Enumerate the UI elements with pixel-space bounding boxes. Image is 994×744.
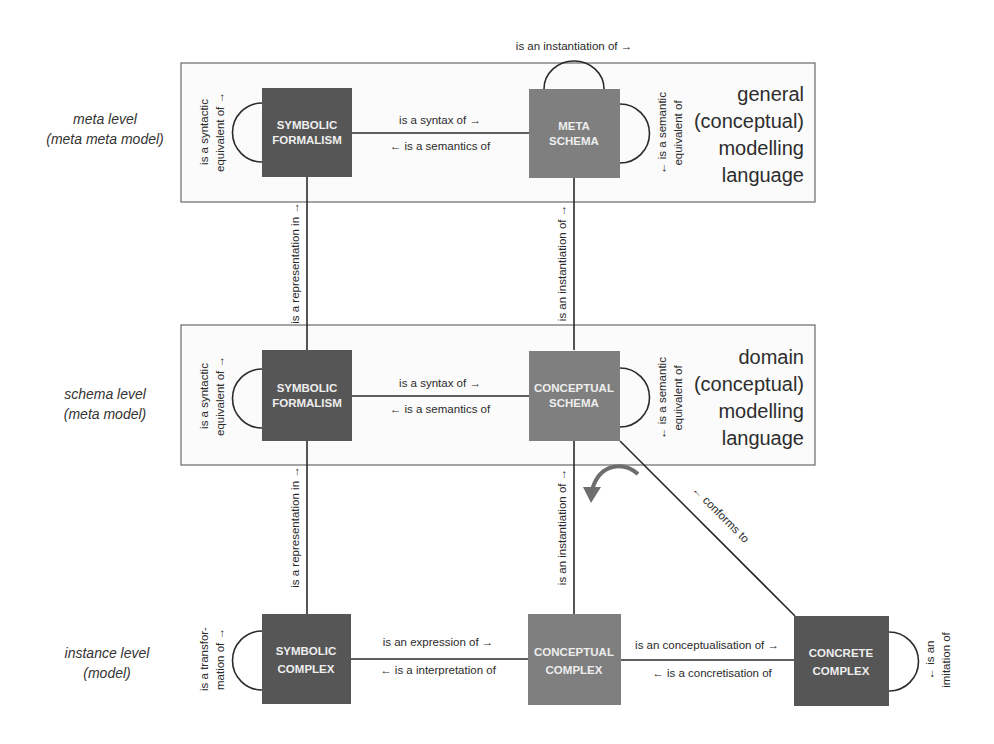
imitation-loop bbox=[889, 632, 919, 691]
label-conforms-to: ← conforms to bbox=[690, 483, 751, 544]
svg-text:(model): (model) bbox=[83, 665, 130, 681]
label-expression-of: is an expression of → bbox=[383, 636, 494, 648]
svg-text:CONCEPTUAL: CONCEPTUAL bbox=[534, 382, 614, 394]
label-representation-lower: is a representation in → bbox=[289, 466, 301, 587]
transformation-loop bbox=[233, 631, 262, 690]
svg-text:(conceptual): (conceptual) bbox=[694, 110, 804, 132]
level-label-schema: schema level (meta model) bbox=[64, 386, 147, 422]
svg-text:equivalent of: equivalent of bbox=[672, 100, 684, 166]
svg-text:language: language bbox=[722, 164, 804, 186]
svg-text:CONCRETE: CONCRETE bbox=[809, 647, 874, 659]
svg-text:instance level: instance level bbox=[65, 645, 151, 661]
svg-text:← is an: ← is an bbox=[924, 641, 936, 680]
svg-text:equivalent of →: equivalent of → bbox=[214, 92, 226, 172]
label-transformation: is a transfor- mation of → bbox=[198, 627, 226, 691]
label-conceptualisation-of: is an conceptualisation of → bbox=[635, 639, 779, 651]
label-meta-syntax-of: is a syntax of → bbox=[399, 114, 481, 126]
label-instantiation-upper: is an instantiation of → bbox=[556, 205, 568, 321]
svg-text:FORMALISM: FORMALISM bbox=[272, 134, 342, 146]
svg-text:← is a semantic: ← is a semantic bbox=[656, 357, 668, 439]
svg-text:mation of →: mation of → bbox=[214, 628, 226, 690]
curved-arrow-icon bbox=[583, 466, 638, 503]
svg-text:general: general bbox=[737, 83, 804, 105]
modelling-diagram: SYMBOLIC FORMALISM META SCHEMA SYMBOLIC … bbox=[0, 0, 994, 744]
svg-text:modelling: modelling bbox=[718, 137, 804, 159]
box-conceptual-schema: CONCEPTUAL SCHEMA bbox=[529, 351, 620, 441]
svg-text:SCHEMA: SCHEMA bbox=[549, 135, 599, 147]
label-representation-upper: is a representation in → bbox=[289, 202, 301, 323]
svg-text:META: META bbox=[558, 120, 590, 132]
svg-text:(conceptual): (conceptual) bbox=[694, 373, 804, 395]
svg-text:imitation of: imitation of bbox=[940, 631, 952, 687]
svg-text:modelling: modelling bbox=[718, 400, 804, 422]
svg-text:is a transfor-: is a transfor- bbox=[198, 627, 210, 691]
svg-text:(meta meta model): (meta meta model) bbox=[46, 131, 163, 147]
svg-text:schema level: schema level bbox=[64, 386, 147, 402]
label-schema-syntax-of: is a syntax of → bbox=[399, 377, 481, 389]
label-meta-instantiation: is an instantiation of → bbox=[516, 40, 632, 52]
svg-text:equivalent of: equivalent of bbox=[672, 365, 684, 431]
svg-text:(meta model): (meta model) bbox=[64, 406, 146, 422]
conforms-to-line bbox=[620, 441, 795, 616]
label-instantiation-lower: is an instantiation of → bbox=[556, 469, 568, 585]
box-symbolic-complex: SYMBOLIC COMPLEX bbox=[262, 614, 351, 704]
svg-text:← is a semantic: ← is a semantic bbox=[656, 92, 668, 174]
label-imitation: ← is an imitation of bbox=[924, 631, 952, 687]
level-label-instance: instance level (model) bbox=[65, 645, 151, 681]
svg-text:language: language bbox=[722, 427, 804, 449]
svg-text:SYMBOLIC: SYMBOLIC bbox=[277, 382, 338, 394]
label-meta-semantics-of: ← is a semantics of bbox=[390, 140, 491, 152]
svg-text:SCHEMA: SCHEMA bbox=[549, 397, 599, 409]
svg-text:FORMALISM: FORMALISM bbox=[272, 397, 342, 409]
svg-text:is a syntactic: is a syntactic bbox=[198, 363, 210, 429]
box-concrete-complex: CONCRETE COMPLEX bbox=[794, 616, 889, 706]
level-label-meta: meta level (meta meta model) bbox=[46, 111, 163, 147]
box-schema-symbolic-formalism: SYMBOLIC FORMALISM bbox=[262, 350, 352, 441]
svg-text:CONCEPTUAL: CONCEPTUAL bbox=[534, 646, 614, 658]
svg-text:SYMBOLIC: SYMBOLIC bbox=[276, 645, 337, 657]
box-meta-symbolic-formalism: SYMBOLIC FORMALISM bbox=[262, 88, 352, 177]
svg-text:COMPLEX: COMPLEX bbox=[813, 665, 870, 677]
box-conceptual-complex: CONCEPTUAL COMPLEX bbox=[528, 614, 621, 705]
svg-text:is a syntactic: is a syntactic bbox=[198, 99, 210, 165]
svg-text:SYMBOLIC: SYMBOLIC bbox=[277, 119, 338, 131]
svg-text:domain: domain bbox=[738, 346, 804, 368]
svg-text:equivalent of →: equivalent of → bbox=[214, 356, 226, 436]
svg-text:COMPLEX: COMPLEX bbox=[546, 664, 603, 676]
label-schema-semantics-of: ← is a semantics of bbox=[390, 403, 491, 415]
label-concretisation-of: ← is a concretisation of bbox=[652, 667, 772, 679]
label-interpretation-of: ← is a interpretation of bbox=[380, 664, 497, 676]
svg-text:COMPLEX: COMPLEX bbox=[278, 663, 335, 675]
box-meta-schema: META SCHEMA bbox=[529, 89, 620, 178]
svg-text:meta level: meta level bbox=[73, 111, 138, 127]
